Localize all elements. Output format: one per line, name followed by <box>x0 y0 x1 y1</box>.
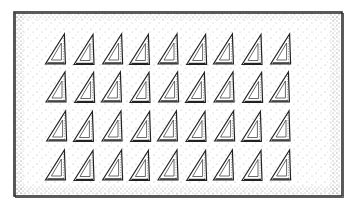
set-square-grid-illustration <box>0 0 352 208</box>
